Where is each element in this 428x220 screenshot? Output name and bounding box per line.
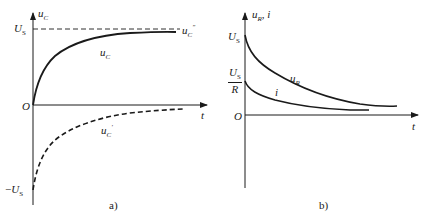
b-t-axis-label: t [412,121,415,132]
a-t-axis-label: t [201,110,204,121]
a-origin-label: O [22,101,30,112]
a-uc-curve-label: uC [100,47,110,61]
a-uc-transient-label: uC′ [101,124,113,139]
a-caption: a) [109,200,118,211]
b-ur-curve [245,35,397,106]
diagram-canvas [0,0,428,220]
figure-b [245,13,418,188]
b-i-curve-label: i [275,87,278,98]
a-uc-curve [33,32,176,105]
a-uc-steady-label: uC″ [182,24,195,39]
b-i-curve [245,81,369,110]
figure-a [33,13,207,205]
a-neg-us-tick-label: −US [5,184,23,198]
a-y-axis-label: uC [38,8,48,22]
b-origin-label: O [234,111,242,122]
b-us-tick-label: US [228,31,240,45]
a-us-tick-label: US [14,23,26,37]
b-y-axis-label: uR, i [252,9,270,23]
b-caption: b) [319,200,328,211]
b-us-over-r-tick-label: US R [228,67,242,95]
a-uc-transient-curve [33,109,183,190]
b-ur-curve-label: uR [290,73,300,87]
